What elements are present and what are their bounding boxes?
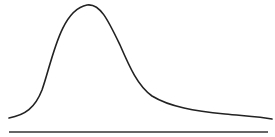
distribution-curve xyxy=(9,5,272,119)
distribution-diagram xyxy=(0,0,275,137)
